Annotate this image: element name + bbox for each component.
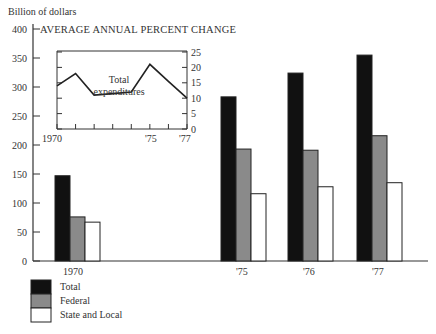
inset-y-tick-label: 0 — [191, 124, 196, 135]
legend: Total Federal State and Local — [31, 280, 122, 322]
bar-state-and-local — [318, 187, 333, 261]
inset-chart: AVERAGE ANNUAL PERCENT CHANGE 0510152025… — [40, 24, 236, 144]
chart-canvas: Billion of dollars 050100150200250300350… — [0, 0, 436, 334]
y-tick-label: 100 — [12, 198, 27, 209]
x-label-75: '75 — [236, 266, 248, 277]
y-axis-unit-label: Billion of dollars — [8, 6, 76, 17]
bar-state-and-local — [387, 183, 402, 261]
inset-y-tick-label: 5 — [191, 108, 196, 119]
bar-federal — [70, 217, 85, 261]
inset-x-label-75: '75 — [145, 133, 157, 144]
y-tick-label: 50 — [17, 227, 27, 238]
inset-x-label-1970: 1970 — [42, 133, 62, 144]
inset-title: AVERAGE ANNUAL PERCENT CHANGE — [40, 24, 236, 35]
inset-y-tick-label: 25 — [191, 47, 201, 58]
legend-label-total: Total — [60, 281, 81, 292]
bar-federal — [372, 136, 387, 261]
legend-swatch-state-local — [31, 308, 51, 322]
inset-annotation-total: Total — [109, 74, 130, 85]
legend-label-federal: Federal — [60, 295, 90, 306]
legend-swatch-federal — [31, 294, 51, 308]
y-tick-label: 0 — [22, 256, 27, 267]
y-tick-label: 300 — [12, 82, 27, 93]
bar-total — [288, 73, 303, 261]
bar-group — [288, 73, 333, 261]
bar-group — [357, 55, 402, 261]
bar-group — [55, 176, 100, 261]
bar-total — [357, 55, 372, 261]
inset-annotation-expenditures: expenditures — [93, 86, 144, 97]
bar-federal — [303, 150, 318, 261]
bar-total — [221, 97, 236, 261]
bar-total — [55, 176, 70, 261]
bar-federal — [236, 149, 251, 261]
x-label-1970: 1970 — [63, 266, 83, 277]
bar-state-and-local — [85, 222, 100, 261]
y-tick-label: 200 — [12, 140, 27, 151]
inset-y-tick-label: 10 — [191, 93, 201, 104]
y-tick-label: 400 — [12, 24, 27, 35]
inset-y-tick-label: 15 — [191, 77, 201, 88]
inset-y-tick-label: 20 — [191, 62, 201, 73]
y-tick-label: 350 — [12, 53, 27, 64]
x-label-76: '76 — [303, 266, 315, 277]
bar-group — [221, 97, 266, 261]
legend-label-state-local: State and Local — [60, 309, 122, 320]
legend-swatch-total — [31, 280, 51, 294]
y-tick-label: 150 — [12, 169, 27, 180]
inset-x-label-77: '77 — [179, 133, 191, 144]
x-label-77: '77 — [372, 266, 384, 277]
y-axis-ticks: 050100150200250300350400 — [12, 24, 40, 267]
bar-state-and-local — [251, 194, 266, 261]
y-tick-label: 250 — [12, 111, 27, 122]
